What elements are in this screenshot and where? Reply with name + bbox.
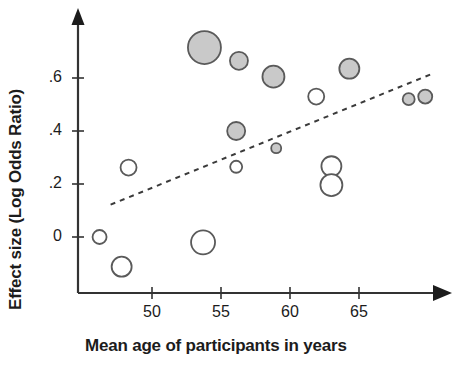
data-point-bubble <box>403 93 415 105</box>
y-tick-label-0.2: .2 <box>24 174 62 192</box>
x-tick-label-50: 50 <box>132 303 172 321</box>
bubble-chart-figure: .6 .4 .2 0 50 55 60 65 Mean age of parti… <box>0 0 460 366</box>
x-tick-label-55: 55 <box>201 303 241 321</box>
data-point-bubble <box>271 143 281 153</box>
x-tick-label-65: 65 <box>339 303 379 321</box>
data-point-bubble <box>93 230 107 244</box>
data-point-bubble <box>230 52 248 70</box>
data-point-bubble <box>339 59 359 79</box>
data-point-bubble <box>308 89 324 105</box>
data-point-bubble <box>320 174 342 196</box>
y-axis <box>72 8 85 293</box>
x-axis <box>78 285 452 301</box>
data-point-bubble <box>188 31 221 64</box>
y-tick-label-0.6: .6 <box>24 68 62 86</box>
data-point-bubble <box>230 161 242 173</box>
data-point-bubble <box>112 257 132 277</box>
y-axis-arrowhead <box>72 8 85 25</box>
data-point-bubble <box>418 90 432 104</box>
y-tick-label-0: 0 <box>24 227 62 245</box>
x-axis-arrowhead <box>433 285 452 301</box>
data-point-layer <box>93 31 433 277</box>
x-tick-label-60: 60 <box>270 303 310 321</box>
data-point-bubble <box>227 122 245 140</box>
data-point-bubble <box>262 66 284 88</box>
trend-line <box>111 74 433 205</box>
data-point-bubble <box>191 230 215 254</box>
y-axis-title: Effect size (Log Odds Ratio) <box>6 89 26 310</box>
x-axis-title: Mean age of participants in years <box>85 336 347 356</box>
data-point-bubble <box>121 160 137 176</box>
y-tick-label-0.4: .4 <box>24 121 62 139</box>
